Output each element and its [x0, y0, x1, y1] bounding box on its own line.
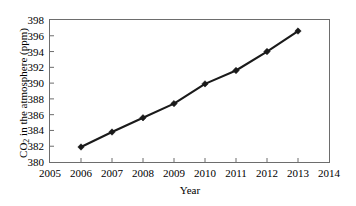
data-line	[81, 31, 298, 147]
y-tick-label: 390	[22, 78, 44, 89]
data-point-marker	[140, 115, 146, 121]
x-tick-label: 2011	[225, 168, 247, 179]
y-tick-label: 386	[22, 109, 44, 120]
x-tick-label: 2012	[256, 168, 278, 179]
y-tick-label: 398	[22, 15, 44, 26]
y-tick-label: 396	[22, 30, 44, 41]
x-tick-label: 2014	[318, 168, 340, 179]
x-tick-label: 2008	[132, 168, 154, 179]
y-tick-label: 380	[22, 157, 44, 168]
y-tick-label: 382	[22, 141, 44, 152]
x-axis-tick-labels: 2005200620072008200920102011201220132014	[0, 168, 356, 184]
x-tick-label: 2005	[39, 168, 61, 179]
y-tick-label: 384	[22, 125, 44, 136]
plot-area	[49, 19, 330, 163]
co2-line-chart: CO2 in the atmosphere (ppm) 380382384386…	[0, 0, 356, 206]
x-tick-label: 2013	[287, 168, 309, 179]
x-tick-label: 2009	[163, 168, 185, 179]
y-tick-label: 392	[22, 62, 44, 73]
x-tick-label: 2010	[194, 168, 216, 179]
data-line-svg	[50, 20, 329, 162]
y-tick-label: 388	[22, 93, 44, 104]
x-axis-title: Year	[45, 184, 335, 196]
y-tick-label: 394	[22, 46, 44, 57]
x-tick-label: 2006	[70, 168, 92, 179]
x-tick-label: 2007	[101, 168, 123, 179]
